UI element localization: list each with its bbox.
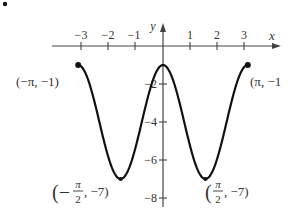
annotation-left-endpoint: (−π, −1) (16, 74, 59, 89)
y-tick-label: −6 (144, 153, 157, 167)
fraction-denominator: 2 (215, 193, 221, 205)
annotation-right-minimum: ( π 2 , −7) (205, 178, 249, 205)
x-tick-label: 1 (187, 28, 193, 42)
chart: −3 −2 −1 1 2 3 x y −2 −4 −6 −8 (−π, −1) … (0, 0, 289, 211)
y-tick-label: −8 (144, 191, 157, 205)
y-axis-label: y (149, 19, 156, 33)
fraction-denominator: 2 (75, 193, 81, 205)
x-tick-label: 3 (241, 28, 247, 42)
x-tick-label: −1 (128, 28, 141, 42)
x-tick-label: 2 (214, 28, 220, 42)
endpoint-right (245, 62, 251, 68)
annotation-left-minimum: (− π 2 , −7) (52, 178, 109, 205)
x-axis-arrow-icon (272, 43, 281, 49)
y-tick-label: −4 (144, 115, 157, 129)
fraction-numerator: π (75, 178, 81, 190)
paren-open: (− (52, 181, 70, 204)
paren-open: ( (205, 181, 212, 204)
bullet-dot (3, 2, 7, 6)
x-axis-label: x (268, 28, 275, 43)
y-axis-arrow-icon (160, 23, 166, 32)
paren-close: , −7) (84, 184, 109, 199)
x-tick-label: −2 (102, 28, 115, 42)
annotation-right-endpoint: (π, −1 (250, 74, 281, 89)
endpoint-left (75, 62, 81, 68)
fraction-numerator: π (215, 178, 221, 190)
paren-close: , −7) (224, 184, 249, 199)
x-tick-label: −3 (75, 28, 88, 42)
minimum-left (119, 177, 123, 181)
